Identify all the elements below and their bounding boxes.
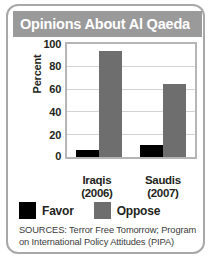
y-tick-label: 80 bbox=[31, 60, 61, 72]
bar-group-iraqis bbox=[67, 44, 131, 157]
x-tick-label-saudis: Saudis (2007) bbox=[145, 174, 181, 199]
chart-card: Opinions About Al Qaeda Percent 100 80 6… bbox=[6, 4, 205, 254]
y-tick-label: 20 bbox=[31, 129, 61, 141]
y-tick-label: 100 bbox=[31, 38, 61, 50]
x-tick-label-line: Saudis bbox=[145, 174, 181, 187]
page-title: Opinions About Al Qaeda bbox=[20, 16, 190, 32]
y-tick-label: 60 bbox=[31, 83, 61, 95]
bar-chart: Percent 100 80 60 40 20 0 bbox=[13, 42, 202, 170]
y-axis-tick-labels: 100 80 60 40 20 0 bbox=[31, 42, 61, 159]
legend-entry-favor: Favor bbox=[19, 202, 74, 219]
x-axis-tick-labels: Iraqis (2006) Saudis (2007) bbox=[65, 174, 197, 199]
legend-entry-oppose: Oppose bbox=[94, 202, 160, 219]
x-tick-label-line: (2006) bbox=[81, 187, 112, 200]
plot-area bbox=[65, 42, 197, 159]
sources-note: SOURCES: Terror Free Tomorrow; Program o… bbox=[19, 225, 199, 248]
x-tick-label-iraqis: Iraqis (2006) bbox=[81, 174, 112, 199]
bar-iraqis-favor bbox=[76, 150, 99, 157]
y-tick-label: 40 bbox=[31, 106, 61, 118]
legend-label-favor: Favor bbox=[42, 204, 74, 218]
chart-legend: Favor Oppose bbox=[19, 202, 195, 219]
y-tick-label: 0 bbox=[31, 150, 61, 162]
chart-title-banner: Opinions About Al Qaeda bbox=[13, 11, 202, 37]
bar-saudis-favor bbox=[140, 145, 163, 157]
bar-iraqis-oppose bbox=[99, 51, 122, 157]
x-tick-label-line: Iraqis bbox=[81, 174, 112, 187]
bar-series-container bbox=[67, 44, 195, 157]
bar-saudis-oppose bbox=[163, 84, 186, 157]
legend-label-oppose: Oppose bbox=[117, 204, 160, 218]
legend-swatch-favor bbox=[19, 202, 36, 219]
x-tick-label-line: (2007) bbox=[145, 187, 181, 200]
bar-group-saudis bbox=[131, 44, 195, 157]
legend-swatch-oppose bbox=[94, 202, 111, 219]
